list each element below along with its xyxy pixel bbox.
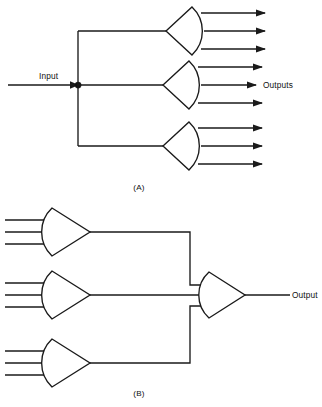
gate-a-top-outputs xyxy=(201,9,266,52)
wire-b-top-to-output-gate xyxy=(90,232,207,285)
gate-a-middle-outputs xyxy=(198,63,263,106)
figure-root: Input Outputs (A) xyxy=(0,0,322,407)
output-label: Output xyxy=(292,290,318,300)
panel-b: Output (B) xyxy=(5,208,318,398)
gate-a-bottom-outputs xyxy=(198,124,263,167)
wire-b-bottom-to-output-gate xyxy=(90,306,207,363)
gate-a-middle xyxy=(163,61,199,109)
gate-b-middle-inputs xyxy=(5,283,47,307)
panel-b-caption: (B) xyxy=(133,389,144,398)
gate-b-output xyxy=(199,272,245,318)
logic-gate-diagram: Input Outputs (A) xyxy=(0,0,322,407)
gate-b-bottom xyxy=(42,339,90,387)
panel-a: Input Outputs (A) xyxy=(8,7,293,192)
gate-a-top xyxy=(166,7,202,55)
gate-b-top-inputs xyxy=(5,220,47,244)
panel-a-caption: (A) xyxy=(133,183,144,192)
outputs-label: Outputs xyxy=(263,80,293,90)
gate-b-top xyxy=(42,208,90,256)
gate-a-bottom xyxy=(163,122,199,170)
panel-a-input-wire xyxy=(8,81,79,88)
input-label: Input xyxy=(39,71,59,81)
gate-b-middle xyxy=(42,271,90,319)
gate-b-bottom-inputs xyxy=(5,351,47,375)
